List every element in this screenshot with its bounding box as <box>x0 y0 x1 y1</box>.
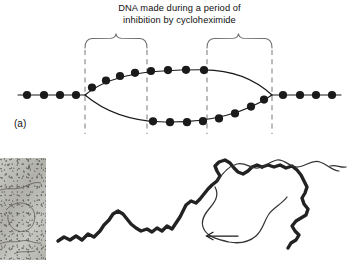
micrograph-grain <box>37 163 39 165</box>
nucleosome-bead <box>166 118 174 126</box>
dna-strand-group <box>18 70 341 122</box>
nucleosome-bead <box>23 91 31 99</box>
smooth-fiber-inner-loop <box>202 187 287 243</box>
lower-arc-strand <box>85 95 272 122</box>
nucleosome-bead <box>215 114 223 122</box>
micrograph-grain <box>23 171 25 173</box>
nucleosome-bead <box>40 91 48 99</box>
nucleosome-bead <box>247 103 255 111</box>
diagram-vector-layer <box>0 0 354 260</box>
direction-arrow <box>207 232 239 240</box>
right-brace <box>207 34 272 49</box>
micrograph-grain <box>7 164 9 166</box>
micrograph-filament-4 <box>14 251 35 254</box>
smooth-fiber-stub <box>330 165 346 167</box>
nucleosome-bead <box>149 117 157 125</box>
nucleosome-bead <box>164 66 172 74</box>
nucleosome-bead <box>312 91 320 99</box>
figure-panel: DNA made during a period of inhibition b… <box>0 0 354 260</box>
nucleosome-bead <box>56 91 64 99</box>
nucleosome-bead <box>296 91 304 99</box>
beads-lower-arc <box>149 96 268 127</box>
micrograph-tracing-group <box>58 160 346 248</box>
micrograph-grain <box>28 166 30 168</box>
micrograph-filament-3 <box>0 241 41 244</box>
nucleosome-bead <box>199 117 207 125</box>
nucleosome-bead <box>102 76 110 84</box>
nucleosome-bead-group <box>23 66 336 127</box>
nucleosome-bead <box>279 91 287 99</box>
beads-upper-arc <box>88 66 208 92</box>
beaded-fiber-tail <box>58 160 262 241</box>
left-brace <box>85 34 147 49</box>
upper-arc-strand <box>85 70 272 95</box>
electron-micrograph <box>0 158 46 260</box>
micrograph-filament-overlay <box>0 158 46 260</box>
nucleosome-bead <box>200 66 208 74</box>
nucleosome-bead <box>116 72 124 80</box>
nucleosome-bead <box>328 91 336 99</box>
nucleosome-bead <box>88 83 96 91</box>
micrograph-filament-2 <box>6 203 35 232</box>
micrograph-grain <box>17 162 19 164</box>
nucleosome-bead <box>182 66 190 74</box>
beaded-fiber-loop <box>262 165 308 248</box>
panel-label: (a) <box>14 118 26 129</box>
nucleosome-bead <box>147 67 155 75</box>
nucleosome-bead <box>131 69 139 77</box>
micrograph-filament-1 <box>0 183 41 191</box>
nucleosome-bead <box>260 96 268 104</box>
nucleosome-bead <box>231 109 239 117</box>
brace-group <box>85 34 272 49</box>
nucleosome-bead <box>72 91 80 99</box>
nucleosome-bead <box>183 118 191 126</box>
